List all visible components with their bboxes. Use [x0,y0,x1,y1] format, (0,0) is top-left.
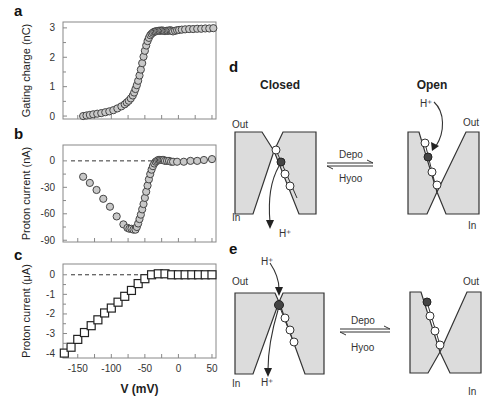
chart-a-gating-charge: a0123Gating charge (nC) [14,2,217,122]
x-tick-label: 50 [206,363,218,374]
y-tick-label: 1 [49,81,55,92]
data-point [210,25,217,32]
data-point [137,66,144,73]
data-point [67,343,75,351]
data-point [180,158,187,165]
closed-state-title: Closed [260,78,300,92]
residue-open-icon [436,341,444,349]
y-tick-label: 0 [49,155,55,166]
open-in-label: In [468,220,476,231]
residue-open-icon [272,146,280,154]
y-tick-label: 0 [49,269,55,280]
e-open-in-label: In [468,386,476,397]
y-tick-label: -30 [41,182,56,193]
panel-label-e: e [229,240,237,257]
hyoo-label-e: Hyoo [351,342,375,353]
residue-open-icon [428,168,436,176]
figure: a0123Gating charge (nC) b0-30-60-90Proto… [0,0,493,410]
closed-out-label: Out [232,119,248,130]
data-point [113,213,120,220]
x-axis-label: V (mV) [120,382,158,396]
data-point [139,60,146,67]
e-closed-channel-right-wall [279,293,324,374]
panel-label-d: d [229,58,238,75]
e-open-out-label: Out [463,276,479,287]
residue-open-icon [431,327,439,335]
data-point [208,271,216,279]
data-point [106,203,113,210]
open-out-label: Out [463,117,479,128]
x-tick-label: -100 [101,363,121,374]
residue-open-icon [433,181,441,189]
e-open-channel-right-wall [440,292,481,373]
data-point [194,157,201,164]
data-point [208,156,215,163]
y-tick-label: -3 [46,328,55,339]
y-tick-label: -90 [41,235,56,246]
y-tick-label: -1 [46,289,55,300]
depo-label-e: Depo [351,315,375,326]
closed-proton-out-label: H⁺ [279,228,291,239]
arrowhead-down-icon [266,220,274,229]
y-tick-label: 2 [49,52,55,63]
residue-open-icon [426,312,434,320]
residue-protonated-icon [424,153,432,161]
y-tick-label: -4 [46,348,55,359]
residue-open-icon [281,314,289,322]
proton-entry-arrow [434,102,443,146]
proton-exit-arrow [269,166,279,222]
open-channel-right-wall [437,132,479,214]
residue-protonated-icon [277,158,285,166]
residue-open-icon [286,182,294,190]
x-tick-label: -50 [138,363,153,374]
y-axis-label: Gating charge (nC) [20,24,32,118]
open-proton-in-label: H⁺ [420,98,432,109]
x-tick-label: -150 [68,363,88,374]
panel-d-diagram: d Closed Open Out In H⁺ Depo Hyoo H⁺ Out… [229,58,479,239]
y-tick-label: 3 [49,22,55,33]
y-tick-label: -60 [41,208,56,219]
data-point [187,157,194,164]
panel-e-diagram: e H⁺ Out In H⁺ Depo Hyoo Out In [229,240,481,397]
data-point [173,158,180,165]
hyoo-label-d: Hyoo [339,173,363,184]
chart-c-proton-current-ua: c0-1-2-3-4-150-100-50050Proton current (… [14,246,218,396]
data-point [100,195,107,202]
y-axis-label: Proton current (nA) [20,147,32,241]
residue-open-icon [421,139,429,147]
residue-protonated-icon [275,301,284,310]
chart-b-proton-current-na: b0-30-60-90Proton current (nA) [14,125,216,246]
open-state-title: Open [417,78,448,92]
e-closed-in-label: In [232,378,240,389]
closed-channel-right-wall [274,132,316,214]
depo-label-d: Depo [339,149,363,160]
data-point [93,186,100,193]
residue-protonated-icon [423,298,431,306]
data-point [80,173,87,180]
y-tick-label: -2 [46,308,55,319]
e-proton-out-label: H⁺ [261,377,273,388]
data-point [200,156,207,163]
panel-label-c: c [14,246,22,263]
y-tick-label: 0 [49,111,55,122]
panel-label-b: b [14,125,23,142]
e-closed-out-label: Out [232,276,248,287]
residue-open-icon [286,326,294,334]
panel-label-a: a [14,2,23,19]
arrowhead-down-icon [264,368,272,377]
y-axis-label: Proton current (μA) [20,264,32,358]
closed-channel-left-wall [235,132,274,214]
residue-open-icon [281,170,289,178]
data-point [86,179,93,186]
x-tick-label: 0 [176,363,182,374]
residue-open-icon [290,338,298,346]
